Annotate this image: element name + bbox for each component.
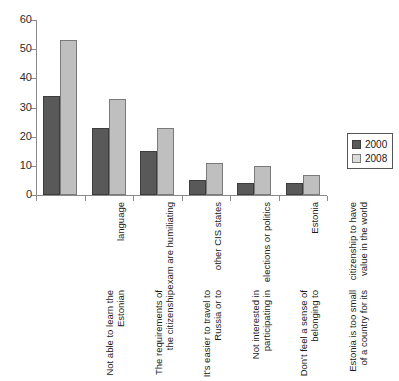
bar-2000-cat0 [43, 96, 60, 195]
legend-item-2000: 2000 [352, 137, 387, 151]
bar-2008-cat3 [206, 163, 223, 195]
x-label-cat1: The requirements of the citizenshipexam … [131, 202, 175, 378]
y-tick-label: 30 [20, 101, 32, 113]
x-label-cat4: Don't feel a sense of belonging toEstoni… [276, 202, 320, 378]
legend-label-2008: 2008 [365, 153, 387, 164]
x-label-line: Estonia [309, 202, 320, 290]
x-tick-2 [133, 196, 134, 201]
bar-2008-cat0 [60, 40, 77, 195]
y-tick-label: 40 [20, 71, 32, 83]
bar-chart: 0102030405060 2000 2008 Not able to lear… [0, 0, 399, 381]
cropped-title-sliver [6, 0, 246, 5]
legend-swatch-icon-2000 [352, 140, 361, 149]
bar-2008-cat2 [157, 128, 174, 195]
bar-2008-cat4 [254, 166, 271, 195]
x-label-cat0: Not able to learn the Estonianlanguage [82, 202, 126, 378]
x-label-line: Estonia is too small of a country for it… [347, 290, 369, 378]
x-label-line: The requirements of the citizenship [153, 290, 175, 378]
x-tick-0 [36, 196, 37, 201]
x-label-line: Not interested in participating in [250, 290, 272, 378]
x-label-cat3: Not interested in participating inelecti… [228, 202, 272, 378]
x-label-line: Not able to learn the Estonian [104, 290, 126, 378]
bar-2000-cat3 [189, 180, 206, 195]
bars-layer [36, 14, 327, 196]
bar-2008-cat1 [109, 99, 126, 195]
y-tick-label: 50 [20, 42, 32, 54]
x-tick-6 [327, 196, 328, 201]
y-tick-label: 60 [20, 13, 32, 25]
y-tick-label: 10 [20, 159, 32, 171]
x-tick-1 [85, 196, 86, 201]
bar-2000-cat5 [286, 183, 303, 195]
x-label-line: language [115, 202, 126, 290]
x-label-line: other CIS states [212, 202, 223, 290]
y-tick-label: 0 [26, 188, 32, 200]
x-label-line: citizenship to have value in the world [347, 202, 369, 290]
x-label-cat5: Estonia is too small of a country for it… [325, 202, 369, 378]
x-tick-4 [230, 196, 231, 201]
plot-area: 0102030405060 [36, 14, 328, 196]
bar-2008-cat5 [303, 175, 320, 195]
legend-label-2000: 2000 [365, 139, 387, 150]
x-tick-5 [279, 196, 280, 201]
legend-item-2008: 2008 [352, 151, 387, 165]
legend-swatch-icon-2008 [352, 154, 361, 163]
x-tick-3 [182, 196, 183, 201]
bar-2000-cat2 [140, 151, 157, 195]
bar-2000-cat1 [92, 128, 109, 195]
x-label-cat2: It's easier to travel to Russia or tooth… [179, 202, 223, 378]
x-axis-category-labels: Not able to learn the EstonianlanguageTh… [36, 202, 328, 380]
legend: 2000 2008 [347, 133, 393, 169]
x-label-line: Don't feel a sense of belonging to [298, 290, 320, 378]
x-label-line: exam are humiliating [164, 202, 175, 290]
y-tick-label: 20 [20, 130, 32, 142]
x-label-line: It's easier to travel to Russia or to [201, 290, 223, 378]
x-label-line: elections or politics [261, 202, 272, 290]
bar-2000-cat4 [237, 183, 254, 195]
